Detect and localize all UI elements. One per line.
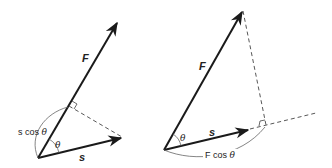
vector-s-right xyxy=(164,130,248,150)
right-angle-marker-right xyxy=(259,120,265,126)
projection-dashed-left xyxy=(69,106,122,137)
projection-label-left: s cos θ xyxy=(18,127,48,137)
left-diagram: F s θ s cos θ xyxy=(18,23,122,163)
label-s-left: s xyxy=(79,151,85,163)
right-angle-marker-left xyxy=(72,101,77,109)
projection-label-right: F cos θ xyxy=(205,150,236,160)
label-s-right: s xyxy=(209,126,215,138)
vector-F-left xyxy=(38,23,117,158)
label-F-left: F xyxy=(82,52,89,64)
vector-projection-figure: F s θ s cos θ F s θ F cos θ xyxy=(0,0,332,168)
angle-theta-left: θ xyxy=(55,140,61,150)
angle-theta-right: θ xyxy=(180,133,186,143)
label-F-right: F xyxy=(199,60,206,72)
projection-dashed-right xyxy=(243,11,266,125)
vector-F-right xyxy=(164,12,242,150)
right-diagram: F s θ F cos θ xyxy=(164,11,316,161)
